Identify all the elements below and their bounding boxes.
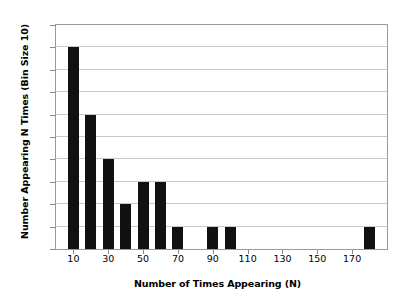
bar [120,204,131,249]
x-tick-label: 130 [267,254,297,264]
bar [225,227,236,249]
y-tick-mark [50,70,55,71]
y-tick-mark [50,204,55,205]
y-tick-mark [50,47,55,48]
x-tick-mark [248,250,249,254]
y-tick-mark [50,159,55,160]
x-tick-mark [108,250,109,254]
x-tick-mark [352,250,353,254]
x-tick-label: 10 [58,254,88,264]
x-tick-label: 90 [198,254,228,264]
y-tick-mark [50,115,55,116]
gridline-y-5 [56,136,387,137]
x-tick-mark [317,250,318,254]
x-axis-title: Number of Times Appearing (N) [45,278,390,289]
gridline-y-6 [56,114,387,115]
x-tick-label: 150 [302,254,332,264]
bar [85,115,96,249]
x-tick-mark [282,250,283,254]
x-tick-label: 170 [337,254,367,264]
y-tick-mark [50,227,55,228]
bar [364,227,375,249]
plot-inner [56,25,387,249]
bar [68,47,79,249]
x-tick-label: 110 [233,254,263,264]
bar [138,182,149,249]
gridline-y-7 [56,91,387,92]
x-tick-label: 50 [128,254,158,264]
x-tick-mark [178,250,179,254]
histogram-chart: Number Appearing N Times (Bin Size 10) 0… [0,0,409,304]
y-tick-mark [50,182,55,183]
bar [207,227,218,249]
y-tick-mark [50,137,55,138]
y-tick-mark [50,249,55,250]
bar [103,159,114,249]
x-tick-label: 70 [163,254,193,264]
plot-area [55,24,388,250]
x-tick-label: 30 [93,254,123,264]
y-tick-mark [50,25,55,26]
x-tick-mark [213,250,214,254]
x-tick-mark [73,250,74,254]
x-tick-mark [143,250,144,254]
y-axis-title: Number Appearing N Times (Bin Size 10) [19,22,30,242]
y-tick-mark [50,92,55,93]
gridline-y-9 [56,46,387,47]
bar [172,227,183,249]
bar [155,182,166,249]
gridline-y-8 [56,69,387,70]
